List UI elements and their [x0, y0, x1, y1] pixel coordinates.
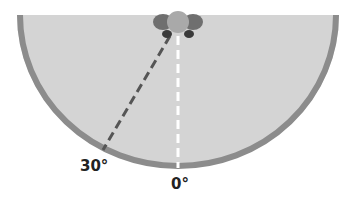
angle-label-30: 30° — [80, 157, 108, 175]
angle-label-0: 0° — [171, 175, 189, 193]
viewing-angle-diagram — [0, 0, 348, 199]
